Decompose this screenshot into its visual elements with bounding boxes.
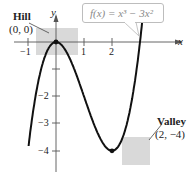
y-tick-label-neg4: −4 [38, 146, 49, 156]
y-tick-label-neg2: −2 [38, 91, 49, 101]
y-tick-label-neg3: −3 [38, 118, 49, 128]
x-tick-label-neg1: −1 [20, 47, 31, 57]
valley-highlight-box [122, 137, 150, 165]
valley-title: Valley [157, 116, 186, 127]
x-tick-label-2: 2 [109, 47, 114, 57]
x-tick-label-1: 1 [81, 47, 86, 57]
y-axis-label: y [51, 7, 56, 18]
hill-title: Hill [13, 11, 31, 22]
valley-coordinates: (2, −4) [155, 129, 185, 140]
hill-point [54, 40, 59, 45]
function-label-pointer [124, 22, 139, 36]
function-label: f(x) = x³ − 3x² [90, 7, 153, 19]
x-axis-label: x [178, 36, 183, 47]
hill-coordinates: (0, 0) [9, 24, 33, 35]
valley-point [110, 148, 115, 153]
